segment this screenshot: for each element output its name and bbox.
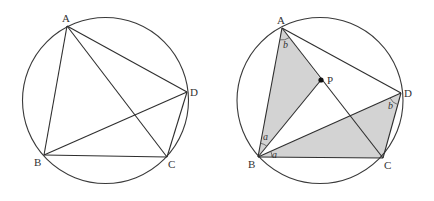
- angle-label-a: a: [263, 131, 268, 142]
- angle-label-b: b: [283, 39, 288, 50]
- circumcircle: [237, 18, 403, 184]
- segment-bd: [44, 92, 187, 155]
- point-label-p: P: [327, 74, 333, 86]
- geometry-figure: ABCD ABCDPbaab: [0, 0, 434, 201]
- point-label-b: B: [34, 156, 41, 168]
- angle-label-a: a: [272, 149, 277, 160]
- segment-cd: [167, 92, 187, 157]
- point-label-c: C: [384, 159, 391, 171]
- point-label-a: A: [277, 14, 285, 26]
- point-label-a: A: [62, 12, 70, 24]
- point-label-d: D: [190, 86, 198, 98]
- left-cyclic-quadrilateral-figure: ABCD: [23, 12, 199, 184]
- right-cyclic-quadrilateral-with-point-p-figure: ABCDPbaab: [237, 14, 412, 184]
- point-label-c: C: [168, 158, 175, 170]
- point-label-d: D: [404, 87, 412, 99]
- circumcircle: [23, 18, 189, 184]
- angle-label-b: b: [388, 100, 393, 111]
- point-p-dot: [318, 77, 323, 82]
- segment-bc: [44, 155, 167, 157]
- point-label-b: B: [248, 158, 255, 170]
- segment-ad: [67, 26, 187, 92]
- segment-ab: [44, 26, 67, 155]
- segment-ac: [67, 26, 167, 157]
